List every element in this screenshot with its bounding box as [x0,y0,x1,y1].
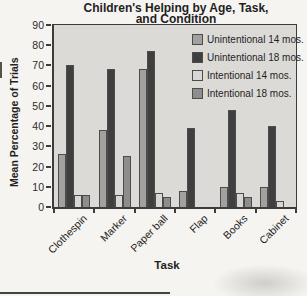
x-tick-mark-1 [93,209,95,213]
category-label-marker: Marker [97,212,129,244]
scan-artifact-bottom-line [0,292,170,294]
y-tick-mark-70 [46,64,51,66]
category-label-clothespin: Clothespin [45,212,89,256]
bar-clothespin-intentional-18-mos- [82,195,90,207]
bar-marker-intentional-18-mos- [123,156,131,207]
y-tick-mark-20 [46,166,51,168]
intentional-18-mos--swatch [192,88,203,99]
unintentional-18-mos--swatch [192,52,203,63]
bar-paper-ball-unintentional-18-mos- [147,51,155,207]
x-tick-mark-5 [255,209,257,213]
bar-books-intentional-14-mos- [236,193,244,207]
bar-cabinet-intentional-14-mos- [276,201,284,207]
category-label-cabinet: Cabinet [256,212,290,246]
y-tick-mark-50 [46,105,51,107]
intentional-14-mos--swatch [192,70,203,81]
legend-item-intentional-18-mos-: Intentional 18 mos. [192,87,304,100]
legend-item-intentional-14-mos-: Intentional 14 mos. [192,69,304,82]
bar-paper-ball-intentional-14-mos- [155,193,163,207]
y-tick-mark-40 [46,125,51,127]
y-tick-label-0: 0 [12,201,44,213]
bar-paper-ball-intentional-18-mos- [163,197,171,207]
bar-flap-unintentional-14-mos- [179,191,187,207]
bar-clothespin-unintentional-14-mos- [58,154,66,207]
x-tick-mark-0 [53,209,55,213]
legend-item-unintentional-18-mos-: Unintentional 18 mos. [192,51,304,64]
scan-artifact-left-mark [0,62,2,78]
y-tick-mark-0 [46,206,51,208]
y-tick-label-80: 80 [12,39,44,51]
legend-item-unintentional-14-mos-: Unintentional 14 mos. [192,33,304,46]
y-tick-mark-60 [46,85,51,87]
bar-chart-figure: Children's Helping by Age, Task, and Con… [0,0,307,296]
x-tick-mark-6 [295,209,297,213]
bar-books-unintentional-14-mos- [220,187,228,207]
legend-label-unintentional-18-mos-: Unintentional 18 mos. [207,52,304,63]
x-tick-mark-4 [214,209,216,213]
bar-clothespin-unintentional-18-mos- [66,65,74,207]
y-tick-label-30: 30 [12,140,44,152]
bar-marker-intentional-14-mos- [115,195,123,207]
y-tick-label-10: 10 [12,181,44,193]
y-tick-mark-10 [46,186,51,188]
bar-paper-ball-unintentional-14-mos- [139,69,147,207]
legend: Unintentional 14 mos.Unintentional 18 mo… [192,33,304,105]
unintentional-14-mos--swatch [192,34,203,45]
y-tick-mark-90 [46,24,51,26]
bar-cabinet-unintentional-14-mos- [260,187,268,207]
bar-cabinet-unintentional-18-mos- [268,126,276,207]
bar-flap-unintentional-18-mos- [187,128,195,207]
legend-label-unintentional-14-mos-: Unintentional 14 mos. [207,34,304,45]
legend-label-intentional-18-mos-: Intentional 18 mos. [207,88,292,99]
bar-books-unintentional-18-mos- [228,110,236,207]
category-label-books: Books [221,212,250,241]
bar-marker-unintentional-14-mos- [99,130,107,207]
bar-clothespin-intentional-14-mos- [74,195,82,207]
category-label-paper-ball: Paper ball [127,212,169,254]
y-tick-label-40: 40 [12,120,44,132]
scan-artifact-smudge [212,264,307,296]
y-tick-mark-80 [46,44,51,46]
x-tick-mark-2 [134,209,136,213]
chart-title: Children's Helping by Age, Task, and Con… [48,3,304,25]
y-tick-label-60: 60 [12,80,44,92]
y-tick-label-90: 90 [12,19,44,31]
y-tick-label-50: 50 [12,100,44,112]
bar-marker-unintentional-18-mos- [107,69,115,207]
x-tick-mark-3 [174,209,176,213]
y-tick-mark-30 [46,145,51,147]
legend-label-intentional-14-mos-: Intentional 14 mos. [207,70,292,81]
bar-books-intentional-18-mos- [244,197,252,207]
category-label-flap: Flap [187,212,210,235]
y-tick-label-20: 20 [12,161,44,173]
y-tick-label-70: 70 [12,59,44,71]
